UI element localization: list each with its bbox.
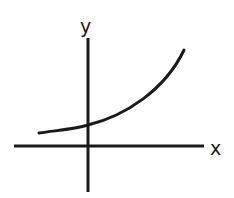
graph-canvas: y x [0,0,234,198]
x-axis-label: x [210,137,221,159]
y-axis-label: y [80,15,91,37]
exponential-curve [39,50,184,133]
